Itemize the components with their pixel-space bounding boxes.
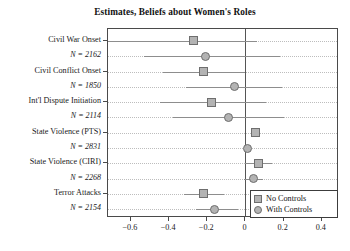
chart-figure: Estimates, Beliefs about Women's Roles C…	[0, 0, 350, 251]
plot-area	[107, 28, 338, 217]
x-axis-tick	[168, 217, 169, 221]
square-marker-icon	[254, 195, 262, 203]
x-axis-tick	[130, 217, 131, 221]
row-gridline	[108, 148, 337, 149]
estimate-marker-with-controls[interactable]	[243, 144, 252, 153]
x-axis-tick-label: −0.4	[148, 223, 188, 232]
estimate-marker-with-controls[interactable]	[230, 82, 239, 91]
y-axis-outcome-label: State Violence (PTS)	[0, 127, 101, 136]
estimate-marker-no-controls[interactable]	[251, 128, 260, 137]
y-axis-outcome-label: Civil War Onset	[0, 35, 101, 44]
y-axis-outcome-label: Int'l Dispute Initiation	[0, 96, 101, 105]
estimate-marker-with-controls[interactable]	[249, 174, 258, 183]
legend-item-no-controls[interactable]: No Controls	[254, 193, 334, 204]
confidence-interval-line	[108, 41, 257, 42]
estimate-marker-with-controls[interactable]	[201, 52, 210, 61]
row-gridline	[108, 163, 337, 164]
y-axis-outcome-label: State Violence (CIRI)	[0, 157, 101, 166]
legend-label: With Controls	[266, 205, 312, 214]
estimate-marker-no-controls[interactable]	[189, 36, 198, 45]
legend-label: No Controls	[266, 194, 306, 203]
estimate-marker-no-controls[interactable]	[199, 189, 208, 198]
estimate-marker-with-controls[interactable]	[210, 205, 219, 214]
y-axis-sample-size-label: N = 1850	[0, 81, 101, 90]
y-axis-outcome-label: Civil Conflict Onset	[0, 66, 101, 75]
x-axis-tick-label: 0.4	[301, 223, 341, 232]
y-axis-sample-size-label: N = 2114	[0, 111, 101, 120]
y-axis-outcome-label: Terror Attacks	[0, 188, 101, 197]
x-axis-tick-label: −0.2	[186, 223, 226, 232]
x-axis-tick	[206, 217, 207, 221]
estimate-marker-no-controls[interactable]	[199, 67, 208, 76]
y-axis-sample-size-label: N = 2268	[0, 173, 101, 182]
row-gridline	[108, 133, 337, 134]
estimate-marker-no-controls[interactable]	[254, 159, 263, 168]
y-axis-sample-size-label: N = 2162	[0, 50, 101, 59]
legend-item-with-controls[interactable]: With Controls	[254, 204, 334, 215]
chart-title: Estimates, Beliefs about Women's Roles	[0, 7, 350, 17]
estimate-marker-no-controls[interactable]	[207, 98, 216, 107]
x-axis-tick	[244, 217, 245, 221]
row-gridline	[108, 179, 337, 180]
x-axis-tick-label: −0.6	[110, 223, 150, 232]
confidence-interval-line	[144, 56, 280, 57]
y-axis-sample-size-label: N = 2831	[0, 142, 101, 151]
circle-marker-icon	[254, 206, 262, 214]
estimate-marker-with-controls[interactable]	[224, 113, 233, 122]
y-axis-sample-size-label: N = 2154	[0, 203, 101, 212]
x-axis-tick-label: 0	[224, 223, 264, 232]
x-axis-tick-label: 0.2	[263, 223, 303, 232]
chart-legend: No Controls With Controls	[250, 190, 338, 218]
